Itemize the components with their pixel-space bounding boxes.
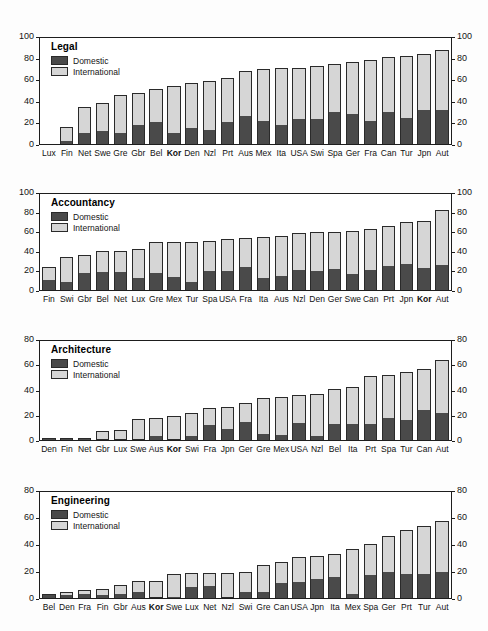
bar-lux bbox=[114, 341, 127, 440]
x-tick-label-fin: Fin bbox=[58, 444, 76, 454]
segment-domestic bbox=[60, 141, 73, 144]
x-tick-label-can: Can bbox=[380, 148, 398, 158]
x-tick-label-kor: Kor bbox=[147, 602, 165, 612]
y-tick-label-right: 60 bbox=[457, 75, 487, 84]
bar-can bbox=[364, 194, 377, 290]
chart-panel-accountancy: 002020404060608080100100FinSwiGbrBelNetL… bbox=[0, 0, 488, 631]
segment-international bbox=[203, 408, 216, 425]
segment-international bbox=[292, 68, 305, 119]
y-tick-mark-left bbox=[36, 599, 39, 600]
y-tick-mark-right bbox=[452, 441, 455, 442]
bar-swe bbox=[346, 194, 359, 290]
segment-domestic bbox=[167, 277, 180, 290]
bar-fin bbox=[60, 38, 73, 144]
y-tick-label-left: 40 bbox=[4, 540, 34, 549]
y-tick-label-right: 0 bbox=[457, 140, 487, 149]
bar-tur bbox=[400, 341, 413, 440]
bar-aus bbox=[275, 194, 288, 290]
y-tick-mark-right bbox=[452, 232, 455, 233]
x-tick-label-tur: Tur bbox=[398, 444, 416, 454]
segment-domestic bbox=[167, 133, 180, 144]
x-tick-label-fin: Fin bbox=[94, 602, 112, 612]
segment-international bbox=[60, 592, 73, 595]
chart-title: Engineering bbox=[51, 495, 120, 507]
x-tick-label-jpn: Jpn bbox=[415, 148, 433, 158]
x-tick-label-swe: Swe bbox=[94, 148, 112, 158]
bar-jpn bbox=[400, 194, 413, 290]
segment-international bbox=[257, 69, 270, 120]
bar-mex bbox=[167, 194, 180, 290]
y-tick-label-right: 80 bbox=[457, 54, 487, 63]
x-tick-label-bel: Bel bbox=[147, 148, 165, 158]
legend-label-international: International bbox=[73, 521, 120, 531]
bar-can bbox=[275, 492, 288, 598]
segment-international bbox=[114, 585, 127, 594]
bar-bel bbox=[96, 194, 109, 290]
x-axis-labels: DenFinNetGbrLuxSweAusKorSwiFraJpnGerGreM… bbox=[40, 444, 451, 454]
y-tick-mark-left bbox=[36, 37, 39, 38]
y-tick-mark-right bbox=[452, 291, 455, 292]
x-tick-label-mex: Mex bbox=[165, 294, 183, 304]
legend: LegalDomesticInternational bbox=[46, 39, 125, 80]
x-tick-label-fra: Fra bbox=[237, 294, 255, 304]
segment-international bbox=[435, 210, 448, 265]
x-tick-label-fra: Fra bbox=[362, 148, 380, 158]
bar-gbr bbox=[96, 341, 109, 440]
y-tick-label-right: 100 bbox=[457, 188, 487, 197]
segment-domestic bbox=[78, 133, 91, 144]
y-tick-mark-right bbox=[452, 213, 455, 214]
segment-domestic bbox=[328, 269, 341, 290]
x-tick-label-gre: Gre bbox=[147, 294, 165, 304]
segment-domestic bbox=[257, 278, 270, 290]
segment-international bbox=[167, 416, 180, 440]
x-tick-label-den: Den bbox=[308, 294, 326, 304]
segment-domestic bbox=[60, 282, 73, 290]
bar-spa bbox=[328, 38, 341, 144]
segment-international bbox=[292, 233, 305, 270]
x-tick-label-swi: Swi bbox=[237, 602, 255, 612]
y-tick-label-left: 80 bbox=[4, 486, 34, 495]
bar-aut bbox=[435, 194, 448, 290]
segment-domestic bbox=[60, 438, 73, 440]
bar-ger bbox=[239, 341, 252, 440]
segment-domestic bbox=[346, 114, 359, 144]
bar-swe bbox=[96, 38, 109, 144]
bar-mex bbox=[257, 38, 270, 144]
x-tick-label-usa: USA bbox=[290, 148, 308, 158]
bar-tur bbox=[185, 194, 198, 290]
legend-label-domestic: Domestic bbox=[73, 359, 108, 369]
segment-international bbox=[239, 572, 252, 593]
x-tick-label-usa: USA bbox=[219, 294, 237, 304]
segment-international bbox=[78, 590, 91, 594]
segment-international bbox=[221, 239, 234, 271]
bar-fin bbox=[42, 194, 55, 290]
y-tick-label-right: 80 bbox=[457, 335, 487, 344]
segment-international bbox=[310, 232, 323, 271]
y-tick-label-right: 0 bbox=[457, 436, 487, 445]
bar-lux bbox=[185, 492, 198, 598]
legend-swatch-international bbox=[51, 521, 68, 530]
x-tick-label-tur: Tur bbox=[183, 294, 201, 304]
segment-domestic bbox=[185, 128, 198, 144]
segment-domestic bbox=[114, 594, 127, 598]
segment-international bbox=[167, 242, 180, 277]
bar-swi bbox=[239, 492, 252, 598]
x-tick-label-gre: Gre bbox=[255, 602, 273, 612]
segment-domestic bbox=[42, 595, 55, 598]
y-tick-label-left: 60 bbox=[4, 75, 34, 84]
y-tick-mark-right bbox=[452, 59, 455, 60]
y-tick-mark-left bbox=[36, 252, 39, 253]
bar-prt bbox=[400, 492, 413, 598]
segment-international bbox=[42, 594, 55, 595]
y-tick-mark-left bbox=[36, 271, 39, 272]
y-tick-label-left: 80 bbox=[4, 54, 34, 63]
bar-ita bbox=[346, 341, 359, 440]
segment-domestic bbox=[203, 130, 216, 144]
x-tick-label-ger: Ger bbox=[237, 444, 255, 454]
bar-den bbox=[60, 492, 73, 598]
segment-domestic bbox=[292, 582, 305, 598]
x-tick-label-net: Net bbox=[112, 294, 130, 304]
segment-international bbox=[203, 573, 216, 586]
y-tick-mark-left bbox=[36, 365, 39, 366]
y-tick-label-left: 0 bbox=[4, 286, 34, 295]
